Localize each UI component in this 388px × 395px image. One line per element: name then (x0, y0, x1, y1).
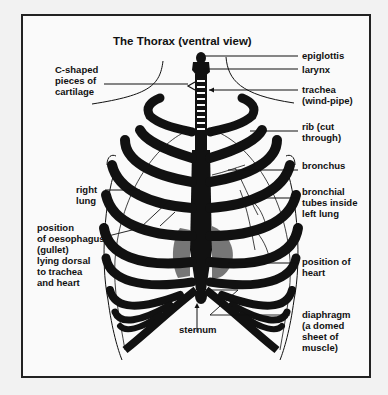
label-bronchial-tubes: bronchial tubes inside left lung (302, 186, 357, 219)
label-larynx: larynx (302, 64, 330, 75)
label-c-shaped-cartilage: C-shaped pieces of cartilage (55, 64, 98, 97)
label-right-lung: right lung (76, 184, 97, 206)
label-trachea: trachea (wind-pipe) (302, 84, 353, 106)
label-sternum: sternum (179, 324, 216, 335)
diagram-title: The Thorax (ventral view) (113, 35, 252, 47)
label-diaphragm: diaphragm (a domed sheet of muscle) (302, 309, 351, 353)
label-rib: rib (cut through) (302, 121, 341, 143)
label-epiglottis: epiglottis (302, 50, 344, 61)
label-heart: position of heart (302, 256, 351, 278)
label-oesophagus: position of oesophagus (gullet) lying do… (37, 222, 105, 288)
label-bronchus: bronchus (302, 160, 345, 171)
sternum-bone (190, 150, 212, 290)
